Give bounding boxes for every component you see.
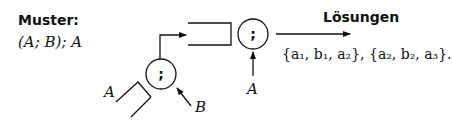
outer-seq-symbol: ; [250,26,256,42]
solutions-label: Lösungen [323,9,399,25]
outer-seq-node: ; [238,19,268,49]
inner-seq-symbol: ; [158,66,164,82]
input-label-b: B [194,98,206,116]
connector-arrow-icon [160,35,186,59]
bracket-shape [188,23,231,45]
inner-seq-node: ; [146,59,176,89]
solutions-text: {a₁, b₁, a₂}, {a₂, b₂, a₃}. [282,46,452,62]
input-label-a-right: A [245,80,258,98]
arrow-b-icon [177,88,191,106]
input-label-a-left: A [102,83,115,101]
input-shape-a [116,82,151,117]
